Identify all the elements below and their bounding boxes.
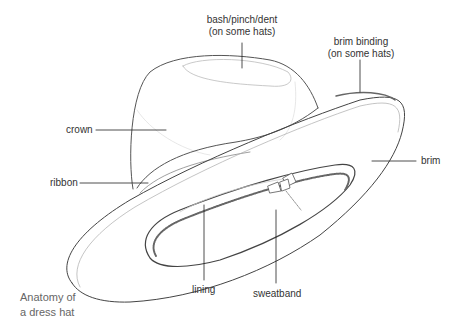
hat-anatomy-diagram: bash/pinch/dent (on some hats) brim bind…	[0, 0, 462, 327]
crown-outline	[131, 55, 318, 189]
label-brim-binding: brim binding (on some hats)	[328, 36, 395, 60]
brim-inner-opening	[145, 164, 355, 266]
bash-dent	[183, 59, 291, 86]
label-brim: brim	[421, 155, 440, 167]
label-bash: bash/pinch/dent (on some hats)	[207, 14, 278, 38]
lining	[180, 178, 290, 212]
label-sweatband: sweatband	[253, 288, 301, 300]
diagram-caption: Anatomy of a dress hat	[20, 290, 76, 320]
label-ribbon: ribbon	[50, 177, 78, 189]
label-crown: crown	[66, 124, 93, 136]
sweatband	[154, 174, 349, 256]
label-lining: lining	[192, 284, 215, 296]
